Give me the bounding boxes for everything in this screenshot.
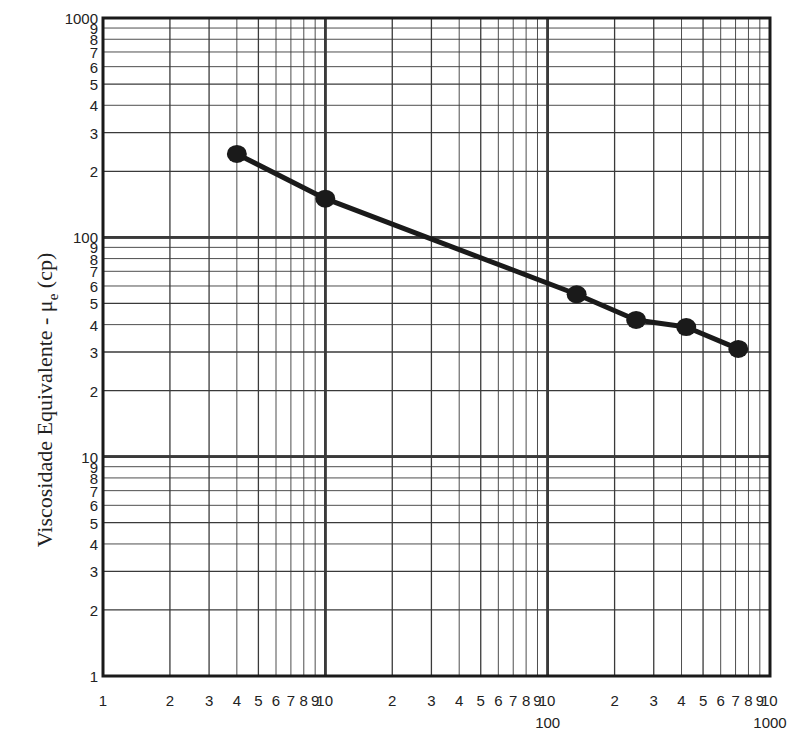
x-tick-label: 4: [677, 692, 685, 709]
x-tick-label: 10: [539, 692, 556, 709]
minor-grid: [103, 18, 770, 676]
x-tick-label: 6: [494, 692, 502, 709]
x-tick-label: 4: [233, 692, 241, 709]
y-tick-label: 5: [90, 76, 98, 93]
x-tick-label: 7: [287, 692, 295, 709]
y-tick-label: 1000: [65, 10, 98, 27]
y-tick-label: 3: [90, 344, 98, 361]
major-grid: [103, 18, 770, 676]
y-tick-label: 6: [90, 497, 98, 514]
y-tick-label: 2: [90, 163, 98, 180]
y-axis-label-unit: (cp): [32, 253, 57, 294]
y-tick-label: 6: [90, 278, 98, 295]
x-tick-label: 5: [254, 692, 262, 709]
x-tick-label: 8: [300, 692, 308, 709]
x-tick-label: 2: [610, 692, 618, 709]
x-tick-label: 1: [99, 692, 107, 709]
data-point-marker: [676, 318, 696, 336]
y-tick-label: 6: [90, 59, 98, 76]
y-tick-label: 2: [90, 383, 98, 400]
x-decade-label: 1000: [753, 714, 786, 731]
x-axis-tick-labels: 12345678910234567891023456789101001000: [99, 692, 787, 731]
y-tick-label: 1: [90, 668, 98, 685]
plot-frame: [103, 18, 770, 676]
data-series: [227, 145, 748, 358]
x-tick-label: 3: [427, 692, 435, 709]
x-tick-label: 3: [650, 692, 658, 709]
x-tick-label: 10: [316, 692, 333, 709]
y-tick-label: 4: [90, 317, 98, 334]
x-tick-label: 2: [388, 692, 396, 709]
y-tick-label: 4: [90, 536, 98, 553]
x-tick-label: 2: [166, 692, 174, 709]
data-point-marker: [227, 145, 247, 163]
log-log-chart: 12345678910234567891023456789101001000 1…: [0, 0, 788, 740]
x-tick-label: 7: [509, 692, 517, 709]
x-tick-label: 5: [699, 692, 707, 709]
x-tick-label: 10: [761, 692, 778, 709]
y-tick-label: 5: [90, 515, 98, 532]
data-point-marker: [626, 311, 646, 329]
x-tick-label: 6: [272, 692, 280, 709]
y-axis-label: Viscosidade Equivalente - μe (cp): [32, 253, 61, 548]
data-point-marker: [567, 285, 587, 303]
y-tick-label: 10: [81, 449, 98, 466]
x-decade-label: 100: [535, 714, 560, 731]
y-tick-label: 5: [90, 295, 98, 312]
x-tick-label: 8: [522, 692, 530, 709]
y-tick-label: 2: [90, 602, 98, 619]
y-axis-label-main: Viscosidade Equivalente - μ: [32, 300, 57, 547]
y-tick-label: 3: [90, 563, 98, 580]
y-tick-label: 100: [73, 229, 98, 246]
x-tick-label: 7: [731, 692, 739, 709]
x-tick-label: 4: [455, 692, 463, 709]
x-tick-label: 5: [477, 692, 485, 709]
data-point-marker: [728, 340, 748, 358]
trend-line: [237, 154, 738, 349]
x-tick-label: 3: [205, 692, 213, 709]
y-axis-tick-labels: 1234567891023456789100234567891000: [65, 10, 98, 685]
x-tick-label: 6: [717, 692, 725, 709]
y-tick-label: 3: [90, 125, 98, 142]
y-tick-label: 4: [90, 97, 98, 114]
x-tick-label: 8: [744, 692, 752, 709]
data-point-marker: [315, 190, 335, 208]
